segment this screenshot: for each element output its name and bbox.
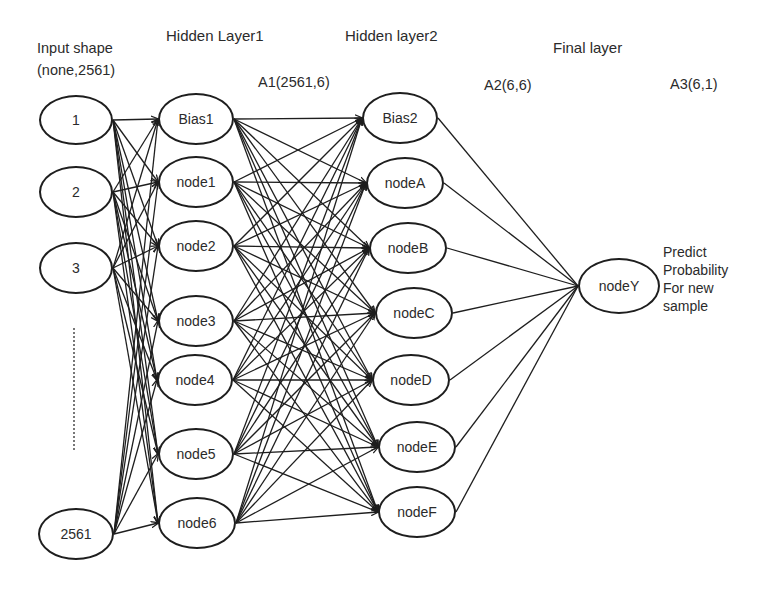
node-label: nodeF <box>397 504 437 520</box>
prediction-description: Predict Probability For new sample <box>663 243 728 315</box>
hidden2-to-output-edges <box>438 118 578 512</box>
prediction-line-3: For new <box>663 279 728 297</box>
node-label: 3 <box>72 260 80 276</box>
connection-edge <box>456 286 578 447</box>
connection-edge <box>456 286 578 512</box>
input-node-2: 2 <box>39 166 113 218</box>
node-label: Bias1 <box>178 111 213 127</box>
hidden2-node-bias2: Bias2 <box>362 92 438 144</box>
input-node-1: 1 <box>39 95 113 145</box>
hidden-layer1-title: Hidden Layer1 <box>166 26 264 45</box>
hidden1-node-node5: node5 <box>158 428 234 480</box>
hidden2-node-nodee: nodeE <box>378 421 456 473</box>
input-to-hidden1-edges <box>113 119 158 534</box>
connection-edge <box>233 118 362 380</box>
input-shape-dims: (none,2561) <box>37 61 115 80</box>
node-label: nodeD <box>390 372 431 388</box>
connection-edge <box>236 118 362 523</box>
connection-edge <box>236 447 378 523</box>
input-node-2561: 2561 <box>38 508 114 560</box>
hidden2-node-nodea: nodeA <box>366 157 444 209</box>
node-label: node5 <box>177 446 216 462</box>
hidden2-node-noded: nodeD <box>372 354 450 406</box>
prediction-line-2: Probability <box>663 261 728 279</box>
input-node-3: 3 <box>39 242 113 294</box>
node-label: nodeA <box>385 175 425 191</box>
node-label: nodeB <box>388 240 428 256</box>
connection-edge <box>234 118 362 454</box>
connection-edge <box>236 512 378 523</box>
hidden2-node-nodeb: nodeB <box>369 222 447 274</box>
connection-edge <box>114 523 158 534</box>
connection-edge <box>236 183 366 523</box>
node-label: 2 <box>72 184 80 200</box>
hidden1-node-node1: node1 <box>158 156 234 208</box>
node-label: Bias2 <box>382 110 417 126</box>
node-label: 1 <box>72 112 80 128</box>
hidden1-node-node3: node3 <box>158 295 234 347</box>
hidden1-node-node2: node2 <box>158 220 234 272</box>
output-node-nodey: nodeY <box>578 258 660 314</box>
node-label: node6 <box>178 515 217 531</box>
node-label: nodeY <box>599 278 639 294</box>
input-ellipsis-dotted-line <box>73 328 75 450</box>
hidden-layer2-title: Hidden layer2 <box>345 26 438 45</box>
node-label: node2 <box>177 238 216 254</box>
connection-edge <box>234 182 366 183</box>
connection-edge <box>234 118 362 119</box>
hidden2-node-nodec: nodeC <box>375 287 453 339</box>
connection-edge <box>113 119 158 120</box>
connection-edge <box>447 248 578 286</box>
node-label: 2561 <box>60 526 91 542</box>
final-layer-title: Final layer <box>553 38 622 57</box>
hidden1-node-node6: node6 <box>158 497 236 549</box>
prediction-line-1: Predict <box>663 243 728 261</box>
node-label: nodeE <box>397 439 437 455</box>
connection-edge <box>438 118 578 286</box>
connection-edge <box>233 380 378 447</box>
node-label: nodeC <box>393 305 434 321</box>
node-label: node4 <box>176 372 215 388</box>
hidden1-node-bias1: Bias1 <box>158 93 234 145</box>
connection-edge <box>444 183 578 286</box>
node-label: node3 <box>177 313 216 329</box>
hidden2-node-nodef: nodeF <box>378 486 456 538</box>
hidden1-node-node4: node4 <box>157 354 233 406</box>
prediction-line-4: sample <box>663 297 728 315</box>
a1-weights-label: A1(2561,6) <box>258 73 330 92</box>
connection-edge <box>234 118 362 321</box>
input-shape-label: Input shape (none,2561) <box>37 39 115 80</box>
hidden1-to-hidden2-edges <box>233 118 378 523</box>
node-label: node1 <box>177 174 216 190</box>
a3-weights-label: A3(6,1) <box>670 75 718 94</box>
a2-weights-label: A2(6,6) <box>484 76 532 95</box>
input-shape-title: Input shape <box>37 39 115 58</box>
